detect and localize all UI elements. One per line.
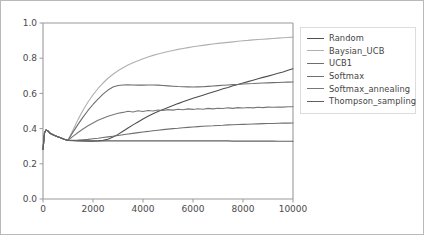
legend-swatch-icon [307,88,324,89]
y-tick-label: 0.8 [23,53,38,63]
x-tick-label: 0 [40,204,46,214]
series-line-softmax [43,123,293,149]
y-tick-label: 0.2 [23,159,37,169]
y-tick-label: 0.4 [23,124,38,134]
legend-swatch-icon [307,76,324,77]
axis-layer [40,23,294,203]
legend-swatch-icon [307,63,324,64]
legend-label: Thompson_sampling [329,96,416,106]
legend-label: Random [329,33,364,43]
legend-item-softmax[interactable]: Softmax [305,70,411,83]
legend-label: UCB1 [329,58,352,68]
series-line-softmax_annealing [43,107,293,150]
legend-item-ucb1[interactable]: UCB1 [305,57,411,70]
y-tick-label: 0.0 [23,194,38,204]
series-layer [43,37,293,149]
x-tick-label: 4000 [132,204,155,214]
x-tick-label: 2000 [82,204,105,214]
legend-label: Softmax_annealing [329,84,410,94]
x-tick-label: 6000 [182,204,205,214]
legend-item-random[interactable]: Random [305,32,411,45]
legend-item-baysian_ucb[interactable]: Baysian_UCB [305,45,411,58]
legend-label: Softmax [329,71,364,81]
legend-item-thompson_sampling[interactable]: Thompson_sampling [305,95,411,108]
legend-label: Baysian_UCB [329,46,384,56]
chart-figure: 0.00.20.40.60.81.00200040006000800010000… [0,0,424,235]
x-tick-label: 10000 [279,204,308,214]
legend-swatch-icon [307,38,324,39]
tick-label-layer: 0.00.20.40.60.81.00200040006000800010000 [23,18,308,214]
legend-item-softmax_annealing[interactable]: Softmax_annealing [305,82,411,95]
legend-swatch-icon [307,50,324,51]
x-tick-label: 8000 [232,204,255,214]
legend-swatch-icon [307,101,324,102]
chart-legend: RandomBaysian_UCBUCB1SoftmaxSoftmax_anne… [300,27,416,114]
y-tick-label: 0.6 [23,89,38,99]
y-tick-label: 1.0 [23,18,38,28]
series-line-baysian_ucb [43,37,293,149]
